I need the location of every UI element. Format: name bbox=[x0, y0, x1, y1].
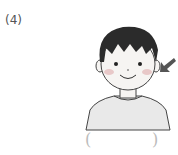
boy-illustration bbox=[78, 22, 178, 132]
right-eye bbox=[138, 62, 142, 66]
answer-box-close: ) bbox=[152, 130, 158, 149]
question-number: (4) bbox=[5, 13, 22, 27]
answer-box-open: ( bbox=[85, 130, 91, 149]
shirt bbox=[86, 96, 170, 130]
left-eye bbox=[114, 62, 118, 66]
arrow-icon bbox=[160, 58, 176, 72]
